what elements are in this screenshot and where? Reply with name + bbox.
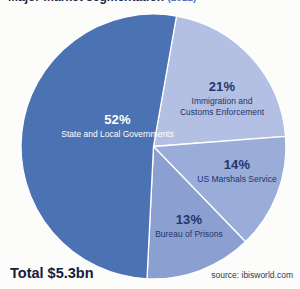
source-credit: source: ibisworld.com	[211, 270, 293, 280]
total-value-label: Total $5.3bn	[10, 265, 94, 281]
chart-panel: Major market segmentation (2012) 21% Imm…	[0, 0, 300, 289]
pie-chart-svg	[0, 0, 300, 289]
